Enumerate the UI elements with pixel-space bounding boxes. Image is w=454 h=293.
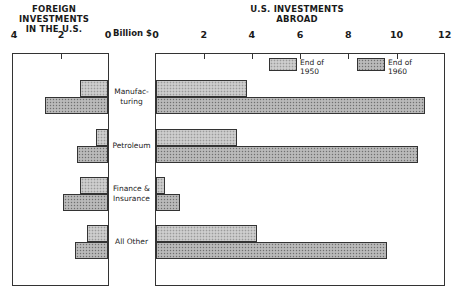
us-abroad-bar-1950 <box>156 225 257 242</box>
foreign-in-us-bar-1950 <box>96 129 108 146</box>
foreign-in-us-bar-1950 <box>87 225 108 242</box>
us-abroad-bar-1950 <box>156 129 238 146</box>
left-title-line2: IN THE U.S. <box>4 24 104 34</box>
right-tick-label: 4 <box>249 29 256 40</box>
us-abroad-bar-1960 <box>156 97 426 114</box>
right-tick-label: 12 <box>438 29 451 40</box>
left-tick-mark <box>61 54 62 59</box>
us-abroad-bar-1960 <box>156 242 387 259</box>
foreign-in-us-bar-1950 <box>80 80 108 97</box>
us-abroad-bar-1960 <box>156 146 419 163</box>
category-label: Manufac-turing <box>108 87 155 107</box>
category-label: All Other <box>108 237 155 247</box>
left-tick-label: 4 <box>11 29 18 40</box>
legend-swatch-1950 <box>269 58 297 71</box>
right-title-line2: ABROAD <box>242 14 352 24</box>
right-tick-mark <box>252 54 253 59</box>
left-tick-label: 2 <box>58 29 65 40</box>
us-abroad-bar-1950 <box>156 177 166 194</box>
category-label: Petroleum <box>108 141 155 151</box>
foreign-in-us-bar-1960 <box>45 97 108 114</box>
right-tick-label: 6 <box>297 29 304 40</box>
right-tick-mark <box>348 54 349 59</box>
right-panel-title: U.S. INVESTMENTS ABROAD <box>242 4 352 24</box>
left-tick-label: 0 <box>105 29 112 40</box>
left-title-line1: FOREIGN INVESTMENTS <box>4 4 104 24</box>
right-tick-label: 8 <box>345 29 352 40</box>
right-title-line1: U.S. INVESTMENTS <box>242 4 352 14</box>
right-tick-label: 10 <box>390 29 403 40</box>
right-tick-label: 0 <box>152 29 159 40</box>
right-tick-mark <box>204 54 205 59</box>
legend-text-1960: End of 1960 <box>388 58 412 76</box>
unit-label: Billion $ <box>113 28 152 38</box>
right-tick-label: 2 <box>200 29 207 40</box>
us-abroad-bar-1950 <box>156 80 248 97</box>
category-label: Finance &Insurance <box>108 184 155 204</box>
foreign-in-us-bar-1960 <box>75 242 108 259</box>
foreign-in-us-bar-1960 <box>63 194 108 211</box>
legend-swatch-1960 <box>357 58 385 71</box>
foreign-in-us-bar-1960 <box>77 146 108 163</box>
us-abroad-bar-1960 <box>156 194 180 211</box>
foreign-in-us-bar-1950 <box>80 177 108 194</box>
legend-text-1950: End of 1950 <box>300 58 324 76</box>
left-panel-title: FOREIGN INVESTMENTS IN THE U.S. <box>4 4 104 34</box>
